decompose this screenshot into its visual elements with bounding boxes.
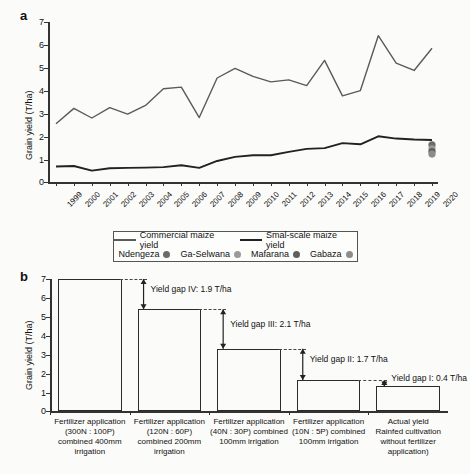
bar-category-label-5: Actual yieldRainfed cultivationwithout f… [368,417,448,457]
bar-category-label-1: Fertilizer application(300N : 100P)combi… [50,417,130,457]
legend-label-ga-selwana: Ga-Selwana [180,249,230,259]
legend-label-gabaza: Gabaza [310,249,342,259]
panel-a-point-gabaza [428,151,435,158]
legend-dot-ndengeza [163,251,170,258]
panel-a-line-smallscale [56,136,432,170]
legend-label-smallscale: Smal-scale maize yield [266,230,357,250]
legend-line-row: Commercial maize yield Smal-scale maize … [114,232,357,247]
bar-category-label-3: Fertilizer application(40N : 30P) combin… [209,417,289,447]
gap-label-1: Yield gap IV: 1.9 T/ha [151,284,232,294]
panel-a-line-commercial [56,36,432,124]
legend-dot-gabaza [346,251,353,258]
legend-dot-mafarana [293,251,300,258]
legend-item-commercial: Commercial maize yield [114,230,234,250]
legend-item-gabaza: Gabaza [310,249,353,259]
legend-item-smallscale: Smal-scale maize yield [240,230,357,250]
bar-category-label-4: Fertilizer application(10N : 5P) combine… [289,417,369,447]
panel-a-legend: Commercial maize yield Smal-scale maize … [113,231,358,262]
gap-arrow-4 [381,380,387,387]
panel-a-series-lines [0,0,470,200]
legend-line-swatch-smallscale [240,239,262,241]
gap-label-2: Yield gap III: 2.1 T/ha [230,319,310,329]
gap-connector-3 [279,349,306,350]
legend-item-ndengeza: Ndengeza [118,249,170,259]
panel-a-line-chart: a Grain yield (T/ha) 7 6 5 4 3 2 1 0 199… [0,0,470,265]
gap-connector-4 [358,380,387,381]
gap-label-4: Yield gap I: 0.4 T/ha [391,373,467,383]
legend-item-ga-selwana: Ga-Selwana [180,249,241,259]
legend-label-commercial: Commercial maize yield [140,230,234,250]
legend-label-mafarana: Mafarana [251,249,289,259]
gap-arrow-2 [220,309,226,349]
legend-point-row: Ndengeza Ga-Selwana Mafarana Gabaza [114,247,357,261]
legend-item-mafarana: Mafarana [251,249,300,259]
legend-label-ndengeza: Ndengeza [118,249,159,259]
legend-dot-ga-selwana [234,251,241,258]
legend-line-swatch-commercial [114,239,136,241]
panel-b-bar-chart: b Grain yield (T/ha) 7 6 5 4 3 2 1 0 Yie… [0,265,470,474]
gap-connector-1 [120,279,147,280]
gap-label-3: Yield gap II: 1.7 T/ha [310,354,388,364]
gap-connector-2 [199,309,226,310]
gap-arrow-1 [141,279,147,309]
gap-arrow-3 [300,349,306,380]
bar-category-label-2: Fertilizer application(120N : 60P)combin… [130,417,210,457]
